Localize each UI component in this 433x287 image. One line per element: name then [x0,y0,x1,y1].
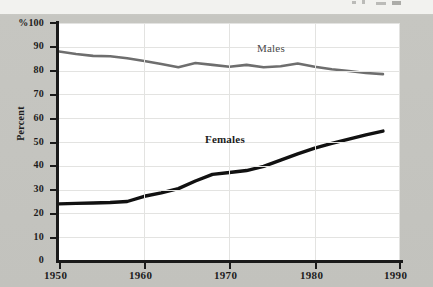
y-axis-tick [50,189,56,191]
y-axis-tick-label-10: 10 [0,232,44,242]
y-axis-tick [50,22,56,24]
y-axis-line [56,21,59,263]
y-axis-tick-label-100: %100 [0,18,44,28]
y-axis-tick [50,237,56,239]
y-axis-tick-label-90: 90 [0,41,44,51]
gridline-vertical [399,23,400,261]
x-axis-tick-label-1950: 1950 [44,269,67,281]
gridline-vertical [315,23,316,261]
scan-edge-artifact [0,0,433,14]
y-axis-tick [50,94,56,96]
scan-speck-icon [352,1,356,4]
y-axis-tick [50,213,56,215]
y-axis-tick [50,118,56,120]
y-axis-tick [50,165,56,167]
x-axis-tick-label-1960: 1960 [129,269,152,281]
scan-speck-icon [362,0,365,4]
figure-container: %100 90 80 70 60 50 40 30 20 10 0 1950 1… [0,0,433,287]
y-axis-tick-label-40: 40 [0,160,44,170]
y-axis-tick-label-0: 0 [0,255,44,265]
y-axis-tick [50,142,56,144]
y-axis-tick-label-20: 20 [0,208,44,218]
y-axis-title: Percent [15,94,26,154]
series-label-males: Males [257,42,285,54]
y-axis-tick-label-80: 80 [0,65,44,75]
x-axis-tick-label-1980: 1980 [300,269,323,281]
y-axis-tick-label-30: 30 [0,184,44,194]
series-label-females: Females [205,133,245,145]
x-axis-tick-label-1990: 1990 [384,269,407,281]
scan-speck-icon [376,2,386,5]
y-axis-tick [50,46,56,48]
y-axis-tick [50,70,56,72]
gridline-vertical [144,23,145,261]
x-axis-tick-label-1970: 1970 [214,269,237,281]
scan-speck-icon [392,1,401,5]
